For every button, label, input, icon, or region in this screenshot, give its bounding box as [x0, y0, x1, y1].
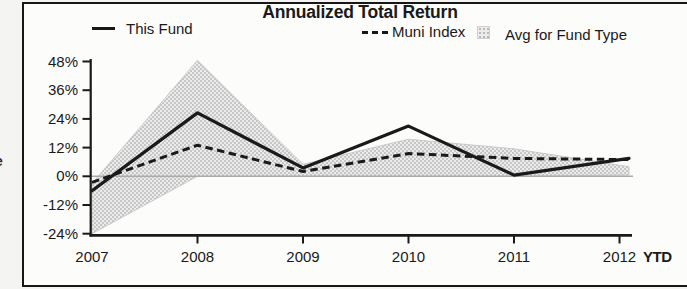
muni-index-dashed-line-swatch — [362, 31, 388, 34]
scanned-fund-report-chart: e Annualized Total Return This Fund Muni… — [0, 0, 687, 289]
y-tick-label-neg24: -24% — [20, 225, 78, 242]
this-fund-solid-line-swatch — [92, 27, 115, 30]
x-tick-label-2012: 2012 — [588, 248, 652, 265]
plot-svg — [0, 0, 687, 289]
y-tick-label-48: 48% — [20, 53, 78, 70]
legend-label-this-fund: This Fund — [126, 20, 193, 37]
y-tick-label-neg12: -12% — [20, 196, 78, 213]
y-tick-label-24: 24% — [20, 110, 78, 127]
x-tick-label-2011: 2011 — [482, 248, 546, 265]
x-tick-label-2008: 2008 — [166, 248, 230, 265]
x-tick-label-2010: 2010 — [377, 248, 441, 265]
y-tick-label-0: 0% — [20, 167, 78, 184]
y-tick-label-12: 12% — [20, 139, 78, 156]
y-tick-label-36: 36% — [20, 81, 78, 98]
x-tick-label-2007: 2007 — [60, 248, 124, 265]
x-tick-label-2009: 2009 — [271, 248, 335, 265]
avg-fund-type-band — [92, 60, 629, 233]
legend-label-avg-fund-type: Avg for Fund Type — [505, 26, 627, 43]
x-axis-ytd-label: YTD — [643, 248, 672, 265]
avg-fund-type-shaded-swatch — [477, 26, 490, 39]
legend-label-muni-index: Muni Index — [392, 23, 465, 40]
